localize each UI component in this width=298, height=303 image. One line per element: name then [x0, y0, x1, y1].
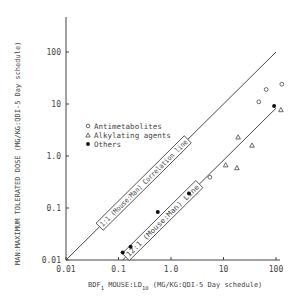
data-points — [121, 82, 284, 254]
x-title-sub2: 10 — [142, 285, 149, 291]
y-tick-label: 0.01 — [42, 256, 61, 265]
legend-label-alkylating: Alkylating agents — [94, 131, 171, 140]
reference-lines: 1:1 (Mouse:Man) Correlation line12:1 (Mo… — [66, 52, 276, 261]
open-triangle-point — [236, 135, 241, 139]
legend: Antimetabolites Alkylating agents Others — [86, 122, 171, 149]
scatter-chart: 0.010.11.010100 0.010.11.010100 1:1 (Mou… — [0, 0, 298, 303]
open-triangle-point — [279, 108, 284, 112]
legend-label-others: Others — [94, 140, 121, 149]
open-circle-point — [280, 82, 284, 86]
x-tick-label: 0.01 — [56, 265, 75, 274]
open-circle-point — [264, 88, 268, 92]
x-tick-label: 10 — [219, 265, 229, 274]
open-triangle-point — [223, 163, 228, 167]
x-axis-title: BDF1 MOUSE:LD10 (MG/KG:QDI-5 Day schedul… — [88, 281, 262, 291]
y-tick-label: 10 — [51, 100, 61, 109]
filled-circle-point — [187, 192, 191, 196]
y-axis-title: MAN:MAXIMUM TOLERATED DOSE (MG/KG:QDI-5 … — [14, 42, 22, 265]
filled-circle-point — [156, 210, 160, 214]
open-circle-icon — [86, 124, 90, 128]
open-triangle-point — [250, 143, 255, 147]
filled-circle-point — [129, 245, 133, 249]
reference-line-1to1: 1:1 (Mouse:Man) Correlation line — [66, 52, 276, 260]
x-tick-label: 100 — [269, 265, 284, 274]
y-tick-label: 0.1 — [47, 204, 62, 213]
line-label-text: 1:1 (Mouse:Man) Correlation line — [99, 138, 190, 228]
open-triangle-point — [235, 166, 240, 170]
x-title-mid: MOUSE:LD — [104, 281, 142, 289]
open-triangle-icon — [86, 133, 90, 137]
y-tick-label: 100 — [47, 48, 62, 57]
y-ticks: 0.010.11.010100 — [42, 48, 69, 265]
open-circle-point — [208, 175, 212, 179]
x-title-main: BDF — [88, 281, 101, 289]
filled-circle-point — [121, 250, 125, 254]
x-title-tail: (MG/KG:QDI-5 Day schedule) — [149, 281, 263, 289]
y-tick-label: 1.0 — [47, 152, 62, 161]
line-label-box: 1:1 (Mouse:Man) Correlation line — [96, 136, 191, 230]
x-tick-label: 0.1 — [111, 265, 126, 274]
filled-circle-point — [272, 104, 276, 108]
filled-circle-icon — [86, 142, 90, 146]
x-tick-label: 1.0 — [164, 265, 179, 274]
legend-label-antimetabolites: Antimetabolites — [94, 122, 162, 131]
open-circle-point — [257, 100, 261, 104]
